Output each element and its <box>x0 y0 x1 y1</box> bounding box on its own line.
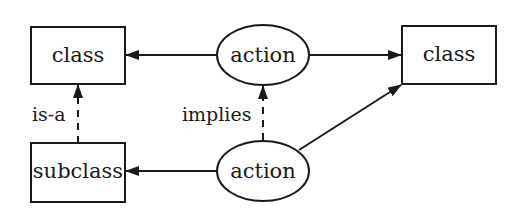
node-label: subclass <box>33 159 123 183</box>
node-action-bottom: action <box>217 141 309 201</box>
node-label: class <box>52 43 105 67</box>
edge-label-is-a: is-a <box>32 103 66 125</box>
node-subclass: subclass <box>31 143 125 202</box>
node-class-right: class <box>402 26 496 84</box>
node-label: class <box>423 42 476 66</box>
node-action-top: action <box>217 25 309 85</box>
edge-label-implies: implies <box>182 103 251 125</box>
node-label: action <box>230 159 296 183</box>
diagram-canvas: is-a implies class action class subclass… <box>0 0 524 213</box>
node-label: action <box>230 43 296 67</box>
edge-action-bottom-to-class-right <box>299 85 401 150</box>
node-class-left: class <box>31 27 125 84</box>
